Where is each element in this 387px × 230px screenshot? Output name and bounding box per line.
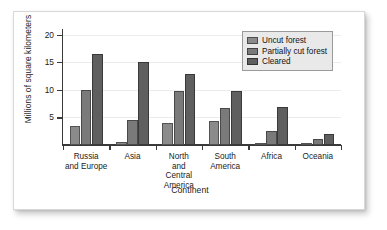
bar <box>266 131 277 145</box>
x-axis-tick <box>248 145 249 150</box>
x-axis-tick <box>341 145 342 150</box>
gridline <box>63 90 341 91</box>
bar <box>70 126 81 145</box>
y-axis-tick <box>57 117 63 118</box>
chart-legend: Uncut forestPartially cut forestCleared <box>242 31 333 71</box>
x-axis-tick <box>156 145 157 150</box>
bar <box>301 143 312 145</box>
bar <box>324 134 335 145</box>
bar <box>127 120 138 145</box>
y-axis-tick <box>57 35 63 36</box>
bar <box>185 74 196 145</box>
legend-label: Partially cut forest <box>262 47 327 56</box>
y-axis-tick-label: 10 <box>28 85 54 95</box>
y-axis-tick <box>57 90 63 91</box>
x-axis-tick <box>63 145 64 150</box>
y-axis-tick-label: 5 <box>28 112 54 122</box>
chart-panel: Millions of square kilometers Continent … <box>13 11 365 210</box>
legend-item[interactable]: Partially cut forest <box>247 46 327 56</box>
bar <box>277 107 288 145</box>
y-axis-tick <box>57 62 63 63</box>
bar <box>255 143 266 145</box>
legend-item[interactable]: Cleared <box>247 57 327 67</box>
bar <box>209 121 220 145</box>
bar <box>313 139 324 145</box>
gridline <box>63 117 341 118</box>
bar <box>174 91 185 145</box>
bar <box>162 123 173 145</box>
bar <box>220 108 231 145</box>
legend-item[interactable]: Uncut forest <box>247 36 327 46</box>
legend-label: Cleared <box>262 57 291 66</box>
bar <box>116 142 127 145</box>
legend-swatch-icon <box>247 58 258 65</box>
bar <box>92 54 103 145</box>
bar <box>138 62 149 145</box>
bar <box>231 91 242 145</box>
x-axis-category-label: Oceania <box>289 152 347 162</box>
legend-label: Uncut forest <box>262 36 306 45</box>
y-axis-tick-label: 20 <box>28 30 54 40</box>
x-axis-tick <box>109 145 110 150</box>
legend-swatch-icon <box>247 37 258 44</box>
legend-swatch-icon <box>247 48 258 55</box>
x-axis-tick <box>202 145 203 150</box>
y-axis-tick-label: 15 <box>28 57 54 67</box>
x-axis-tick <box>295 145 296 150</box>
bar <box>81 90 92 145</box>
